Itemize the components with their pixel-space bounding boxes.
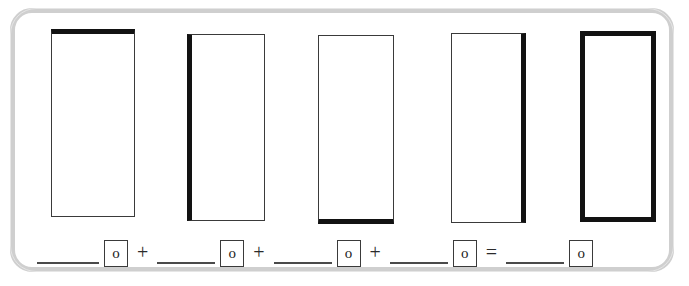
unit-box-3: o [337, 240, 361, 267]
rectangle-3-thick-bottom[interactable] [318, 35, 394, 224]
equation-term-3: o [274, 240, 361, 267]
rectangle-2-thick-left[interactable] [187, 34, 265, 221]
equation-row: o + o + o + o = o [15, 231, 679, 275]
answer-blank-3[interactable] [274, 242, 332, 264]
answer-blank-4[interactable] [390, 242, 448, 264]
unit-box-2: o [220, 240, 244, 267]
answer-blank-2[interactable] [157, 242, 215, 264]
rectangle-1-thick-top[interactable] [51, 29, 135, 217]
rectangle-4-thick-right[interactable] [451, 33, 526, 223]
plus-operator-3: + [370, 242, 381, 264]
plus-operator-1: + [137, 242, 148, 264]
answer-blank-5[interactable] [506, 242, 564, 264]
unit-box-1: o [104, 240, 128, 267]
worksheet-page: o + o + o + o = o [0, 0, 689, 286]
equation-term-5: o [506, 240, 593, 267]
equals-operator: = [486, 242, 497, 264]
unit-box-5: o [569, 240, 593, 267]
shapes-row [15, 13, 679, 227]
worksheet-frame: o + o + o + o = o [10, 8, 674, 272]
unit-box-4: o [453, 240, 477, 267]
equation-term-2: o [157, 240, 244, 267]
equation-term-1: o [37, 240, 128, 267]
equation-term-4: o [390, 240, 477, 267]
rectangle-5-thick-all-sides[interactable] [580, 31, 656, 222]
plus-operator-2: + [253, 242, 264, 264]
answer-blank-1[interactable] [37, 242, 99, 264]
